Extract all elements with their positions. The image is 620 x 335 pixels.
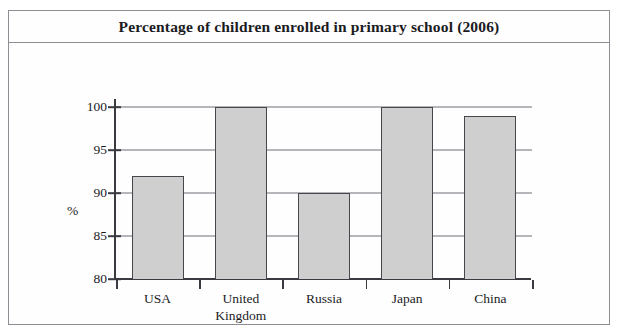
plot-area: % 80859095100 USAUnited KingdomRussiaJap… <box>9 43 609 324</box>
x-axis-tick-mark <box>532 280 534 289</box>
x-axis-tick-mark <box>282 280 284 289</box>
x-axis-category-label: China <box>474 291 506 308</box>
y-axis-tick-label: 100 <box>87 99 107 115</box>
y-axis-line <box>114 99 116 279</box>
x-axis-category-label: USA <box>144 291 171 308</box>
y-axis-tick-label: 85 <box>94 228 108 244</box>
bar <box>132 176 184 279</box>
bar <box>298 193 350 279</box>
chart-title-band: Percentage of children enrolled in prima… <box>9 11 609 43</box>
gridline <box>116 107 532 108</box>
x-axis-category-label: Japan <box>392 291 423 308</box>
chart-figure: Percentage of children enrolled in prima… <box>8 10 610 325</box>
bar <box>215 107 267 279</box>
y-axis-tick-labels: 80859095100 <box>71 43 107 324</box>
x-axis-category-label: Russia <box>306 291 342 308</box>
chart-title: Percentage of children enrolled in prima… <box>119 18 500 36</box>
y-axis-tick-label: 95 <box>94 142 108 158</box>
y-axis-tick-label: 80 <box>94 271 108 287</box>
x-axis-tick-mark <box>366 280 368 289</box>
y-axis-tick-label: 90 <box>94 185 108 201</box>
x-axis-tick-mark <box>199 280 201 289</box>
bar <box>464 116 516 279</box>
x-axis-tick-mark <box>449 280 451 289</box>
x-axis-tick-mark <box>116 280 118 289</box>
bar <box>381 107 433 279</box>
x-axis-category-label: United Kingdom <box>215 291 266 324</box>
